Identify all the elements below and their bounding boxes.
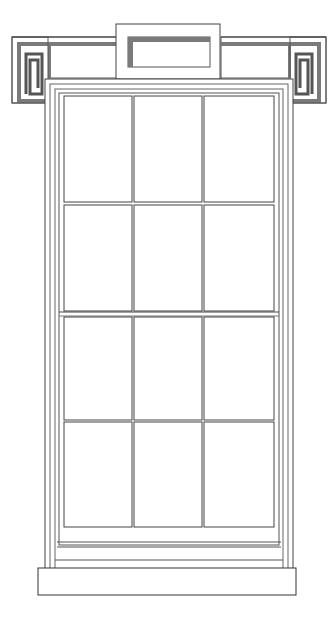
- window-elevation-drawing: [0, 0, 330, 622]
- greek-key-ornament-right: [288, 37, 326, 103]
- window-casing: [45, 79, 293, 569]
- window-sill: [38, 568, 296, 595]
- keystone-tablet: [116, 24, 220, 79]
